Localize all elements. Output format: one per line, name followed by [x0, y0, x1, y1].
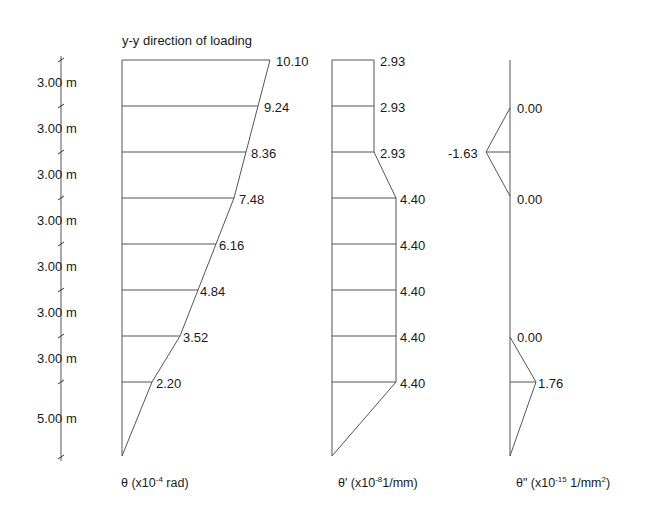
story-height-label: 3.00 m [37, 260, 77, 274]
theta-prime-value: 4.40 [400, 239, 425, 253]
theta-diagram [122, 60, 270, 456]
theta-value: 2.20 [156, 377, 181, 391]
theta-value: 10.10 [276, 55, 309, 69]
story-height-label: 3.00 m [37, 168, 77, 182]
theta-prime-value: 4.40 [400, 193, 425, 207]
story-height-label: 3.00 m [37, 306, 77, 320]
theta-double-prime-value: 0.00 [517, 193, 542, 207]
story-height-label: 3.00 m [37, 352, 77, 366]
theta-double-prime-value: 1.76 [538, 377, 563, 391]
theta-prime-value: 2.93 [380, 55, 405, 69]
theta-prime-value: 2.93 [380, 147, 405, 161]
theta-prime-value: 4.40 [400, 377, 425, 391]
story-height-label: 3.00 m [37, 76, 77, 90]
theta-double-prime-value: 0.00 [517, 331, 542, 345]
story-height-label: 3.00 m [37, 122, 77, 136]
story-height-label: 3.00 m [37, 214, 77, 228]
diagram-canvas [0, 0, 670, 520]
theta-prime-value: 4.40 [400, 331, 425, 345]
theta-value: 9.24 [264, 101, 289, 115]
theta-prime-diagram [332, 60, 396, 456]
theta-prime-axis-label: θ' (x10-81/mm) [338, 475, 418, 490]
theta-value: 7.48 [239, 193, 264, 207]
theta-double-prime-diagram [486, 60, 536, 456]
theta-prime-value: 2.93 [380, 101, 405, 115]
theta-double-prime-value: 0.00 [517, 102, 542, 116]
theta-prime-value: 4.40 [400, 285, 425, 299]
theta-double-prime-value: -1.63 [448, 147, 478, 161]
theta-value: 4.84 [200, 285, 225, 299]
theta-value: 8.36 [251, 147, 276, 161]
theta-value: 3.52 [183, 331, 208, 345]
chart-title: y-y direction of loading [122, 33, 252, 48]
theta-axis-label: θ (x10-4 rad) [121, 475, 189, 490]
theta-value: 6.16 [219, 239, 244, 253]
story-height-label: 5.00 m [37, 412, 77, 426]
theta-double-prime-axis-label: θ" (x10-15 1/mm2) [516, 475, 610, 490]
